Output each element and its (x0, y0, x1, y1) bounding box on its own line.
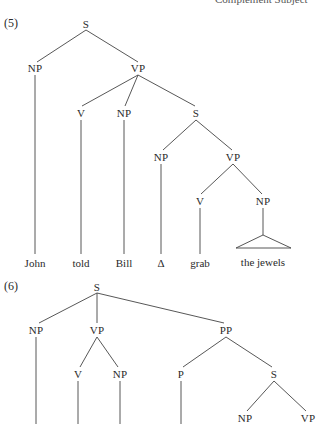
node-np-object: NP (113, 368, 127, 380)
node-np-embedded-object: NP (256, 195, 270, 207)
node-s-root: S (94, 281, 100, 293)
node-np-subject: NP (28, 62, 42, 74)
node-vp: VP (90, 324, 104, 336)
example-number: (6) (4, 279, 18, 294)
node-s-embedded: S (193, 107, 199, 119)
node-pp: PP (220, 324, 233, 336)
node-s-embedded: S (271, 368, 277, 380)
node-v: V (77, 107, 85, 119)
leaf-word: grab (190, 257, 210, 269)
node-vp-embedded: VP (226, 151, 240, 163)
leaf-phrase: the jewels (241, 256, 285, 268)
node-v-embedded: V (196, 195, 204, 207)
node-np-subject: NP (29, 324, 43, 336)
node-np-embedded: NP (238, 412, 252, 424)
leaf-word: John (25, 257, 46, 269)
node-s-root: S (83, 18, 89, 30)
node-v: V (74, 368, 82, 380)
node-vp: VP (131, 62, 145, 74)
example-number: (5) (4, 16, 18, 31)
tree-edges (0, 0, 329, 424)
node-vp-embedded: VP (301, 412, 315, 424)
leaf-word: Bill (116, 257, 133, 269)
node-p: P (178, 368, 184, 380)
leaf-delta: Δ (157, 257, 164, 269)
leaf-word: told (72, 257, 89, 269)
node-np-embedded: NP (154, 151, 168, 163)
node-np-object: NP (117, 107, 131, 119)
